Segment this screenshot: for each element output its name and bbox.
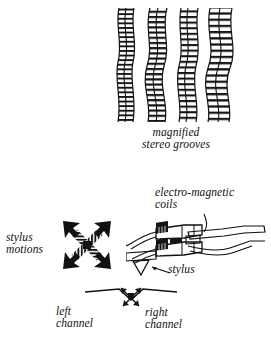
lead-wire-2 bbox=[131, 237, 156, 249]
arrowhead-down-right bbox=[94, 252, 111, 269]
stereo-grooves-illustration bbox=[113, 4, 235, 126]
arrowhead-down-left bbox=[63, 252, 80, 269]
phono-cartridge-illustration bbox=[126, 212, 271, 280]
coil-winding-upper bbox=[156, 221, 168, 239]
stylus-motions-label: stylus motions bbox=[6, 231, 68, 256]
channel-arrows bbox=[121, 288, 141, 306]
groove-center-block bbox=[128, 293, 134, 299]
arrowhead-up-left bbox=[63, 221, 80, 238]
magnified-stereo-grooves-caption: magnified stereo grooves bbox=[124, 126, 228, 151]
groove-strip-3 bbox=[173, 4, 203, 126]
pole-piece bbox=[170, 238, 182, 243]
arrowhead-up-right bbox=[94, 221, 111, 238]
lead-wire-1 bbox=[126, 232, 156, 246]
lead-wire-3 bbox=[132, 249, 156, 259]
leader-line-to-coils bbox=[204, 214, 207, 232]
right-channel-label: right channel bbox=[145, 306, 209, 331]
stylus-label: stylus bbox=[168, 263, 195, 275]
electro-magnetic-coils-label: electro-magnetic coils bbox=[155, 186, 271, 211]
left-channel-label: left channel bbox=[56, 305, 118, 330]
four-way-diagonal-arrow-cross-icon bbox=[61, 219, 113, 271]
groove-strip-2 bbox=[141, 4, 173, 126]
coil-winding-lower bbox=[156, 238, 168, 256]
figure-canvas: magnified stereo grooves electro-magneti… bbox=[0, 0, 271, 346]
